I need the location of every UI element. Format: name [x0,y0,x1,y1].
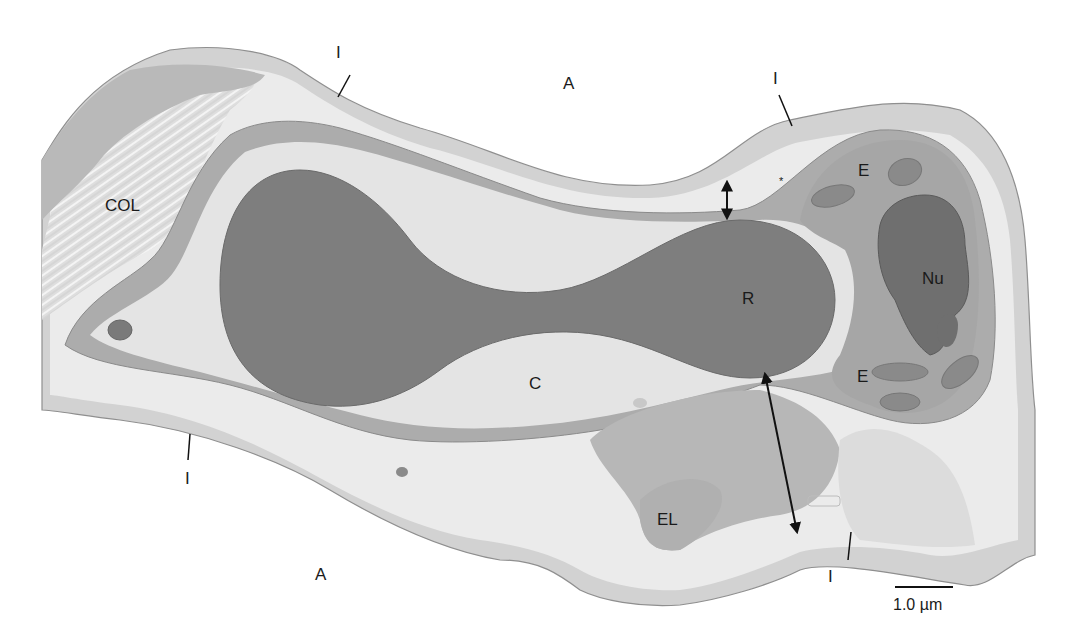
leader-line [188,434,190,460]
organelle [880,393,920,411]
organelle [396,467,408,477]
label-alveolus-top: A [563,75,574,92]
label-endothelium-bottom: E [857,368,868,385]
label-collagen: COL [105,197,140,214]
label-interstitium-bottom-right: I [828,568,833,585]
label-red-cell: R [742,290,754,307]
label-asterisk: * [779,176,783,187]
organelle [108,320,132,340]
label-alveolus-bottom: A [315,566,326,583]
alveolar-capillary-tracing [0,0,1075,636]
diagram-canvas: A A I I I I COL R C E E Nu EL * 1.0 µm [0,0,1075,636]
scale-bar-label: 1.0 µm [893,597,942,613]
label-capillary: C [529,375,541,392]
label-elastin: EL [657,511,678,528]
label-interstitium-top-right: I [773,70,778,87]
label-interstitium-top-left: I [336,44,341,61]
organelle [872,363,928,381]
organelle [633,398,647,408]
label-nucleus: Nu [922,270,944,287]
label-interstitium-bottom-left: I [185,470,190,487]
leader-line [338,75,350,97]
label-endothelium-top: E [858,162,869,179]
